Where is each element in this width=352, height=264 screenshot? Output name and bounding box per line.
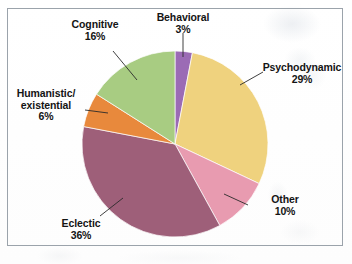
pie-label-cognitive-name: Cognitive xyxy=(72,18,119,30)
pie-label-other: Other 10% xyxy=(255,194,315,217)
pie-label-eclectic-percent: 36% xyxy=(48,230,114,242)
pie-label-cognitive-percent: 16% xyxy=(62,31,128,43)
pie-label-cognitive: Cognitive 16% xyxy=(62,19,128,42)
pie-label-behavioral: Behavioral 3% xyxy=(142,12,224,35)
pie-label-psychodynamic-percent: 29% xyxy=(256,74,348,86)
pie-label-humanistic-existential-percent: 6% xyxy=(8,111,84,123)
pie-label-behavioral-name: Behavioral xyxy=(157,11,210,23)
pie-label-eclectic-name: Eclectic xyxy=(62,217,101,229)
pie-chart-figure: Behavioral 3% Psychodynamic 29% Other 10… xyxy=(0,0,352,264)
pie-label-eclectic: Eclectic 36% xyxy=(48,218,114,241)
pie-label-other-percent: 10% xyxy=(255,206,315,218)
pie-label-psychodynamic-name: Psychodynamic xyxy=(263,61,342,73)
pie-label-other-name: Other xyxy=(271,193,299,205)
pie-label-humanistic-existential: Humanistic/ existential 6% xyxy=(8,88,84,123)
pie-label-behavioral-percent: 3% xyxy=(142,24,224,36)
pie-label-humanistic-existential-name-line1: Humanistic/ xyxy=(17,87,75,99)
pie-label-psychodynamic: Psychodynamic 29% xyxy=(256,62,348,85)
